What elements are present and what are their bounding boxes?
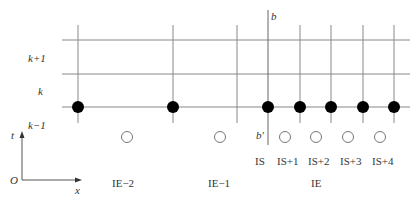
t-axis-label: t xyxy=(11,130,14,141)
element-label: IE xyxy=(311,178,321,189)
hollow-node xyxy=(215,132,226,143)
x-axis-arrow-icon xyxy=(75,178,82,183)
time-level-lines xyxy=(62,40,410,107)
column-label: IS+3 xyxy=(340,156,361,167)
filled-node xyxy=(325,101,337,113)
row-label: k−1 xyxy=(28,120,46,131)
hollow-node xyxy=(375,132,386,143)
column-label: IS+4 xyxy=(372,156,393,167)
boundary-label-b: b xyxy=(271,11,277,22)
hollow-node xyxy=(343,132,354,143)
origin-label: O xyxy=(10,175,18,186)
hollow-nodes xyxy=(122,132,386,143)
filled-node xyxy=(72,101,84,113)
column-label: IS+1 xyxy=(277,156,298,167)
grid-diagram xyxy=(0,0,418,199)
boundary-label-b-prime: b′ xyxy=(256,130,264,141)
row-label: k xyxy=(38,86,43,97)
filled-node xyxy=(167,101,179,113)
column-label: IS xyxy=(255,156,265,167)
hollow-node xyxy=(311,132,322,143)
column-label: IS+2 xyxy=(308,156,329,167)
filled-node xyxy=(262,101,274,113)
filled-node xyxy=(294,101,306,113)
row-label: k+1 xyxy=(28,53,46,64)
t-axis-arrow-icon xyxy=(20,131,25,138)
hollow-node xyxy=(122,132,133,143)
element-label: IE−1 xyxy=(208,178,230,189)
element-label: IE−2 xyxy=(112,178,134,189)
x-axis-label: x xyxy=(75,185,80,196)
filled-node xyxy=(357,101,369,113)
filled-node xyxy=(388,101,400,113)
hollow-node xyxy=(280,132,291,143)
t-x-axes xyxy=(20,131,83,183)
